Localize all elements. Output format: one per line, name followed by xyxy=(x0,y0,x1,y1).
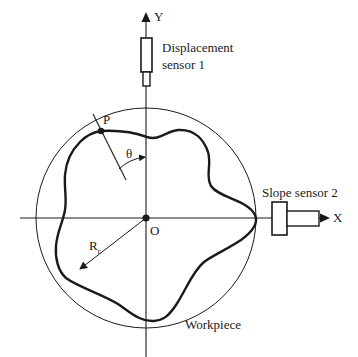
radius-label-main: R xyxy=(89,238,98,253)
x-axis-arrow-icon xyxy=(320,214,330,223)
origin-label: O xyxy=(150,224,159,237)
x-axis-label: X xyxy=(333,211,342,224)
theta-label: θ xyxy=(126,147,132,160)
displacement-sensor-icon xyxy=(141,38,152,86)
y-axis-arrow-icon xyxy=(142,12,151,22)
displacement-sensor-label-line1: Displacement xyxy=(162,41,233,54)
workpiece-label: Workpiece xyxy=(185,318,241,331)
point-p-marker xyxy=(98,128,104,134)
displacement-sensor-label-line2: sensor 1 xyxy=(162,58,205,71)
radius-label-subscript: r xyxy=(98,247,101,256)
slope-sensor-label: Slope sensor 2 xyxy=(262,186,338,199)
radius-label: Rr xyxy=(89,239,100,256)
slope-sensor-icon xyxy=(272,202,319,235)
y-axis-label: Y xyxy=(154,10,163,23)
measurement-diagram: Y X O Displacement sensor 1 Slope sensor… xyxy=(0,0,358,357)
point-p-label: P xyxy=(103,113,110,126)
